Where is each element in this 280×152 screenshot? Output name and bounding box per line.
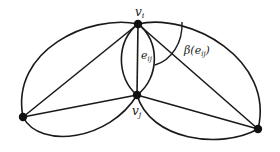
vertex-left — [19, 113, 27, 121]
edge-vi-vj-straight — [137, 24, 138, 95]
edge-vi-right-straight — [138, 24, 258, 129]
edge-vi-left-outer — [22, 22, 138, 117]
edge-vj-right-straight — [137, 95, 258, 129]
edge-vi-left-straight — [23, 24, 138, 117]
graph-diagram: vi vj eij β(eij) — [0, 0, 280, 152]
vertex-vi — [134, 20, 142, 28]
edge-vj-left-straight — [23, 95, 137, 117]
vertex-vj — [133, 91, 141, 99]
label-beta: β(eij) — [183, 44, 210, 58]
edge-vj-left-lower — [23, 95, 137, 136]
label-vi: vi — [135, 5, 145, 20]
label-eij: eij — [141, 49, 153, 63]
vertex-right — [254, 125, 262, 133]
label-vj: vj — [132, 104, 142, 119]
edge-vj-right-lower — [137, 95, 258, 140]
